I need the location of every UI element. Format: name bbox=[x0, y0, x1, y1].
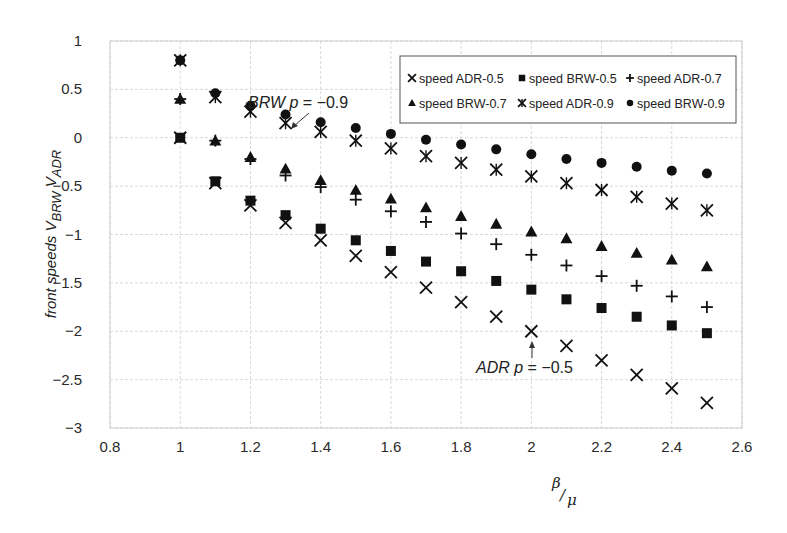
asterisk-marker-icon bbox=[350, 135, 362, 147]
legend-box bbox=[400, 56, 736, 123]
x-axis-label: β / μ bbox=[551, 474, 577, 509]
triangle-marker-icon bbox=[385, 193, 397, 204]
triangle-marker-icon bbox=[525, 226, 537, 237]
triangle-marker-icon bbox=[455, 210, 467, 221]
square-marker-icon bbox=[386, 246, 396, 256]
plus-marker-icon bbox=[596, 270, 608, 282]
x-tick-label: 0.8 bbox=[100, 438, 121, 455]
x-marker-icon bbox=[420, 282, 432, 294]
triangle-marker-icon bbox=[315, 174, 327, 185]
square-marker-icon bbox=[519, 75, 526, 82]
x-marker-icon bbox=[490, 311, 502, 323]
x-tick-label: 1 bbox=[176, 438, 184, 455]
x-tick-label: 1.6 bbox=[380, 438, 401, 455]
triangle-marker-icon bbox=[666, 254, 678, 265]
x-tick-label: 2.2 bbox=[591, 438, 612, 455]
series-speed-adr-0.5 bbox=[174, 132, 713, 409]
triangle-marker-icon bbox=[490, 218, 502, 229]
circle-marker-icon bbox=[456, 140, 466, 150]
circle-marker-icon bbox=[627, 100, 634, 107]
asterisk-marker-icon bbox=[525, 170, 537, 182]
circle-marker-icon bbox=[702, 169, 712, 179]
asterisk-marker-icon bbox=[490, 164, 502, 176]
asterisk-marker-icon bbox=[701, 204, 713, 216]
legend-label: speed BRW-0.5 bbox=[529, 72, 617, 86]
square-marker-icon bbox=[561, 294, 571, 304]
y-tick-label: −2.5 bbox=[52, 371, 82, 388]
x-tick-label: 2 bbox=[527, 438, 535, 455]
annotation-brw-arrow bbox=[294, 113, 309, 126]
triangle-marker-icon bbox=[631, 247, 643, 258]
x-axis-ticks: 0.811.21.41.61.822.22.42.6 bbox=[100, 438, 753, 455]
square-marker-icon bbox=[456, 266, 466, 276]
y-label-sub-brw: BRW bbox=[49, 190, 64, 222]
square-marker-icon bbox=[632, 312, 642, 322]
asterisk-marker-icon bbox=[315, 126, 327, 138]
square-marker-icon bbox=[175, 133, 185, 143]
square-marker-icon bbox=[421, 257, 431, 267]
annotation-brw: BRW p = −0.9 bbox=[248, 94, 348, 129]
legend-item: speed BRW-0.5 bbox=[519, 72, 617, 86]
circle-marker-icon bbox=[667, 166, 677, 176]
plus-marker-icon bbox=[490, 238, 502, 250]
square-marker-icon bbox=[245, 196, 255, 206]
square-marker-icon bbox=[667, 320, 677, 330]
plus-marker-icon bbox=[420, 216, 432, 228]
circle-marker-icon bbox=[491, 144, 501, 154]
square-marker-icon bbox=[526, 285, 536, 295]
square-marker-icon bbox=[491, 276, 501, 286]
y-tick-label: 0.5 bbox=[61, 80, 82, 97]
square-marker-icon bbox=[702, 328, 712, 338]
plus-marker-icon bbox=[455, 228, 467, 240]
legend-label: speed ADR-0.5 bbox=[419, 72, 504, 86]
x-marker-icon bbox=[560, 340, 572, 352]
plus-marker-icon bbox=[701, 301, 713, 313]
plus-marker-icon bbox=[560, 259, 572, 271]
legend-label: speed BRW-0.9 bbox=[637, 97, 725, 111]
circle-marker-icon bbox=[421, 135, 431, 145]
circle-marker-icon bbox=[386, 129, 396, 139]
asterisk-marker-icon bbox=[420, 150, 432, 162]
plus-marker-icon bbox=[525, 249, 537, 261]
plus-marker-icon bbox=[350, 194, 362, 206]
circle-marker-icon bbox=[526, 149, 536, 159]
legend: speed ADR-0.5speed BRW-0.5speed ADR-0.7s… bbox=[400, 56, 736, 123]
x-marker-icon bbox=[631, 369, 643, 381]
x-tick-label: 2.6 bbox=[732, 438, 753, 455]
y-axis-label: front speeds VBRW VADR bbox=[42, 150, 64, 318]
legend-label: speed ADR-0.9 bbox=[529, 97, 614, 111]
legend-item: speed BRW-0.9 bbox=[627, 97, 725, 111]
x-tick-label: 1.4 bbox=[310, 438, 331, 455]
y-tick-label: −1 bbox=[65, 226, 82, 243]
circle-marker-icon bbox=[351, 123, 361, 133]
asterisk-marker-icon bbox=[385, 142, 397, 154]
asterisk-marker-icon bbox=[666, 198, 678, 210]
asterisk-marker-icon bbox=[596, 184, 608, 196]
x-marker-icon bbox=[350, 250, 362, 262]
circle-marker-icon bbox=[561, 154, 571, 164]
x-label-slash: / bbox=[558, 486, 567, 504]
plus-marker-icon bbox=[385, 205, 397, 217]
legend-item: speed ADR-0.7 bbox=[626, 72, 722, 86]
y-tick-label: 1 bbox=[74, 32, 82, 49]
triangle-marker-icon bbox=[560, 232, 572, 243]
plus-marker-icon bbox=[666, 290, 678, 302]
x-tick-label: 1.2 bbox=[240, 438, 261, 455]
plus-marker-icon bbox=[631, 280, 643, 292]
series-speed-brw-0.5 bbox=[175, 133, 712, 338]
square-marker-icon bbox=[210, 176, 220, 186]
asterisk-marker-icon bbox=[560, 177, 572, 189]
circle-marker-icon bbox=[175, 55, 185, 65]
asterisk-marker-icon bbox=[631, 191, 643, 203]
legend-label: speed ADR-0.7 bbox=[637, 72, 722, 86]
legend-item: speed ADR-0.9 bbox=[518, 97, 614, 111]
x-marker-icon bbox=[701, 397, 713, 409]
arrowhead-icon bbox=[529, 341, 535, 348]
legend-label: speed BRW-0.7 bbox=[419, 97, 507, 111]
annotation-adr: ADR p = −0.5 bbox=[475, 341, 573, 376]
x-label-denominator: μ bbox=[567, 491, 577, 509]
square-marker-icon bbox=[597, 303, 607, 313]
x-tick-label: 2.4 bbox=[661, 438, 682, 455]
triangle-marker-icon bbox=[420, 201, 432, 212]
circle-marker-icon bbox=[210, 88, 220, 98]
